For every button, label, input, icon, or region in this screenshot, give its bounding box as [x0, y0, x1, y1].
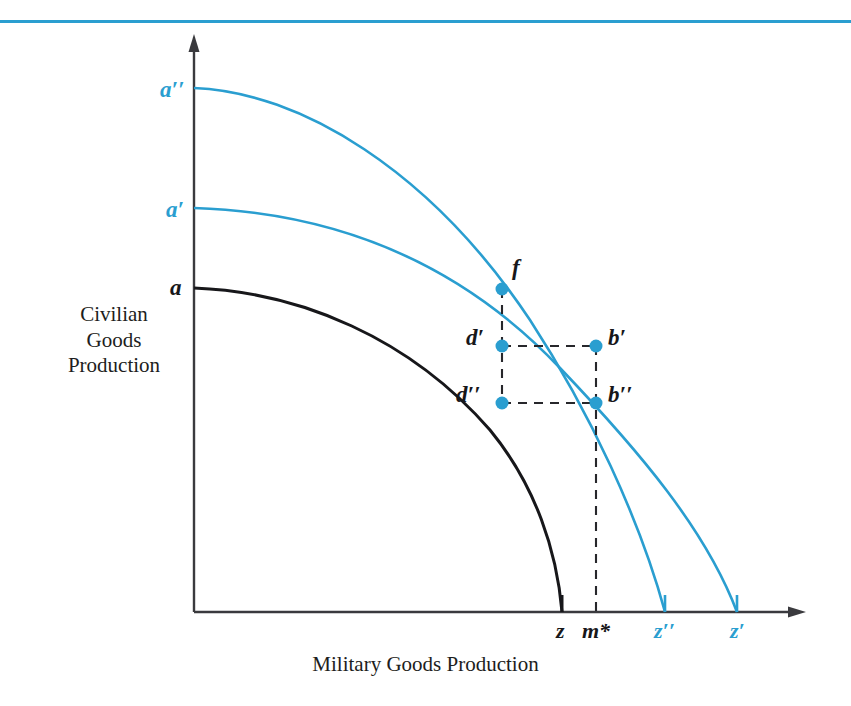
- label-a-prime: a′: [166, 198, 184, 221]
- label-z-double-prime: z′′: [654, 620, 675, 642]
- label-a-double-prime: a′′: [160, 78, 184, 101]
- label-a: a: [170, 276, 182, 299]
- y-axis-arrowhead: [189, 34, 200, 52]
- point-d-double-prime[interactable]: [496, 397, 509, 410]
- point-f[interactable]: [496, 283, 509, 296]
- axes-group: [189, 34, 807, 618]
- construction-lines-group: [502, 289, 596, 612]
- y-axis-title-line-1: Civilian: [40, 302, 188, 328]
- label-point-d-prime: d′: [466, 326, 484, 349]
- x-axis-ticks-group: [562, 595, 737, 612]
- label-point-b-prime: b′: [608, 326, 626, 349]
- y-axis-title-line-3: Production: [40, 353, 188, 379]
- x-axis-title: Military Goods Production: [0, 652, 851, 678]
- y-axis-title-line-2: Goods: [40, 328, 188, 354]
- label-z-prime: z′: [730, 620, 745, 642]
- point-d-prime[interactable]: [496, 340, 509, 353]
- label-m-star: m*: [582, 620, 610, 642]
- x-axis-arrowhead: [788, 607, 806, 618]
- label-point-d-double-prime: d′′: [456, 383, 480, 406]
- point-b-prime[interactable]: [590, 340, 603, 353]
- y-axis-title: Civilian Goods Production: [40, 302, 188, 379]
- frontier-curve-a1-z1: [194, 208, 737, 612]
- frontier-curve-a-z: [194, 288, 562, 612]
- label-point-b-double-prime: b′′: [608, 383, 632, 406]
- label-point-f: f: [512, 256, 520, 279]
- point-b-double-prime[interactable]: [590, 397, 603, 410]
- figure-container: a′′ a′ a z m* z′′ z′ f d′ b′ d′′ b′′ Civ…: [0, 0, 851, 706]
- label-z: z: [556, 620, 565, 642]
